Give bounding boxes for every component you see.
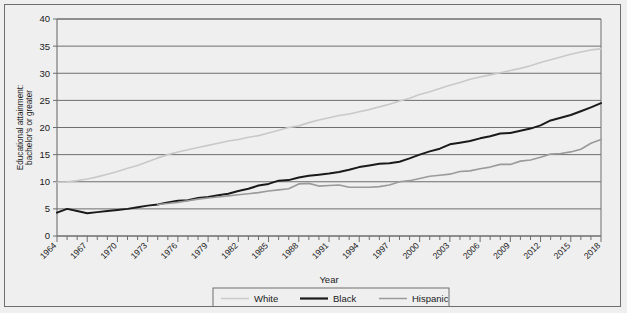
ytick-label-35: 35 [39,41,50,52]
xtick-label-1985: 1985 [249,240,270,261]
xtick-label-1964: 1964 [38,240,59,261]
line-chart: 0510152025303540196419671970197319761979… [5,5,620,306]
ytick-label-30: 30 [39,68,50,79]
xtick-label-1976: 1976 [159,240,180,261]
ytick-label-25: 25 [39,95,50,106]
ytick-label-5: 5 [45,203,50,214]
ytick-label-40: 40 [39,13,50,24]
ytick-label-10: 10 [39,176,50,187]
xtick-label-1967: 1967 [68,240,89,261]
ytick-label-15: 15 [39,149,50,160]
xtick-label-1970: 1970 [98,240,119,261]
xtick-label-2006: 2006 [461,240,482,261]
xtick-label-2015: 2015 [552,240,573,261]
ytick-label-20: 20 [39,122,50,133]
xtick-label-2009: 2009 [491,240,512,261]
xtick-label-1994: 1994 [340,240,361,261]
xtick-label-2000: 2000 [400,240,421,261]
xtick-label-1973: 1973 [128,240,149,261]
legend-label-black: Black [333,293,356,304]
xtick-label-1979: 1979 [189,240,210,261]
y-axis-title: Educational attainment:bachelor's or gre… [16,85,34,171]
legend-label-hispanic: Hispanic [412,293,449,304]
xtick-label-2018: 2018 [582,240,603,261]
chart-frame: 0510152025303540196419671970197319761979… [4,4,621,307]
xtick-label-2012: 2012 [521,240,542,261]
x-axis-title: Year [319,274,338,285]
xtick-label-2003: 2003 [431,240,452,261]
legend-label-white: White [254,293,278,304]
xtick-label-1991: 1991 [310,240,331,261]
xtick-label-1982: 1982 [219,240,240,261]
ytick-label-0: 0 [45,230,50,241]
xtick-label-1988: 1988 [280,240,301,261]
xtick-label-1997: 1997 [370,240,391,261]
